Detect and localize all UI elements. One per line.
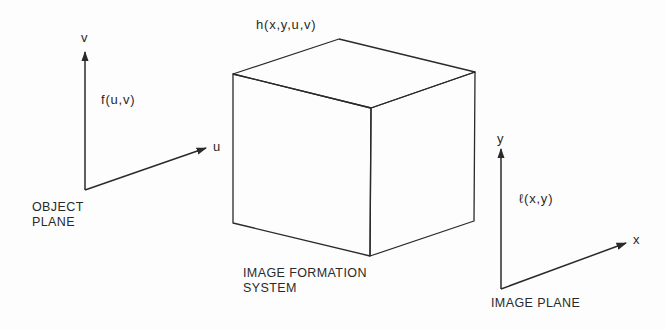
image-plane-caption: IMAGE PLANE [491, 296, 580, 310]
image-formation-diagram: v u f(u,v) OBJECT PLANE h(x,y,u,v) IMAGE… [0, 0, 665, 329]
x-axis [501, 243, 626, 289]
cube-top-face [233, 39, 475, 108]
u-axis-label: u [213, 140, 221, 154]
y-axis-label: y [497, 132, 504, 146]
x-axis-label: x [633, 233, 640, 247]
system-cube [233, 39, 475, 256]
v-axis-label: v [81, 31, 88, 45]
system-function-label: h(x,y,u,v) [256, 18, 317, 32]
system-caption-1: IMAGE FORMATION [243, 266, 367, 280]
image-plane-axes [501, 149, 626, 289]
object-plane-axes [85, 52, 206, 190]
cube-right-face [370, 72, 475, 256]
u-axis [85, 148, 206, 190]
cube-front-face [233, 74, 371, 256]
object-plane-caption-1: OBJECT [32, 200, 84, 214]
image-function-label: ℓ(x,y) [519, 192, 553, 206]
system-caption-2: SYSTEM [243, 281, 297, 295]
object-plane-caption-2: PLANE [32, 215, 75, 229]
object-function-label: f(u,v) [101, 93, 135, 107]
